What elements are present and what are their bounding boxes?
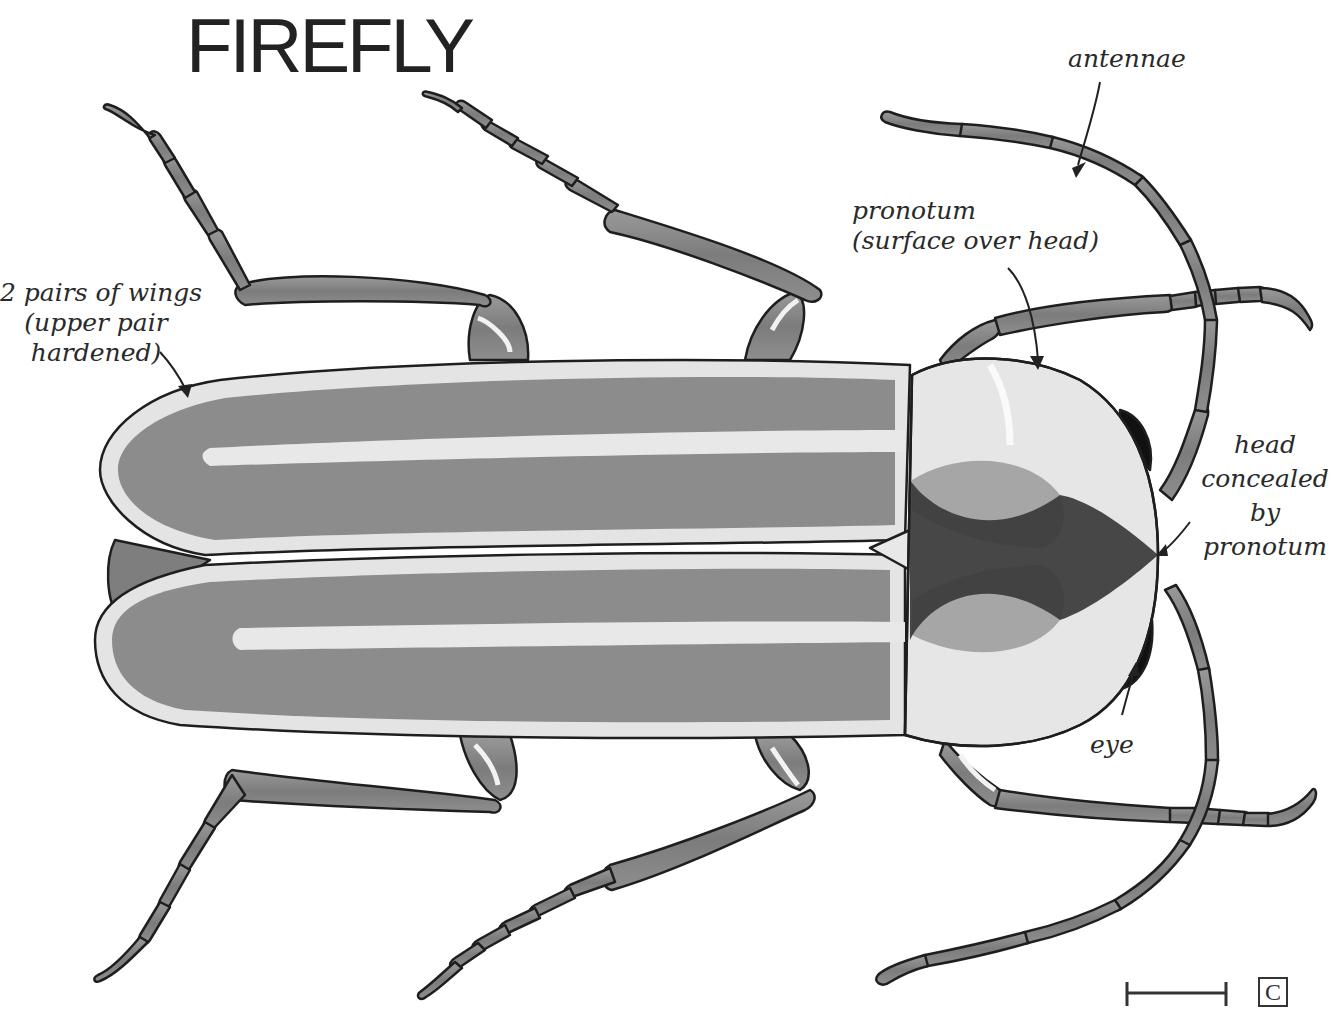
label-pronotum: pronotum (surface over head) <box>852 196 1099 256</box>
pronotum <box>905 359 1158 747</box>
label-head: head concealed by pronotum <box>1190 428 1338 564</box>
label-pronotum-line2: (surface over head) <box>852 226 1099 256</box>
firefly-diagram: FIREFLY <box>0 0 1338 1036</box>
elytron-upper <box>100 360 910 555</box>
label-antennae: antennae <box>1068 44 1186 74</box>
label-head-line1: head <box>1190 428 1338 462</box>
label-pronotum-line1: pronotum <box>852 196 1099 226</box>
label-eye: eye <box>1090 730 1134 760</box>
label-head-line3: by <box>1190 496 1338 530</box>
firefly-illustration <box>0 0 1338 1036</box>
label-wings-line2: (upper pair <box>0 308 192 338</box>
elytron-lower <box>95 553 905 738</box>
label-wings-line1: 2 pairs of wings <box>0 278 192 308</box>
scale-letter-box: C <box>1258 977 1288 1007</box>
label-wings: 2 pairs of wings (upper pair hardened) <box>0 278 192 368</box>
label-head-line2: concealed <box>1190 462 1338 496</box>
leg-rear-lower <box>94 735 516 982</box>
scale-bar <box>1127 982 1226 1006</box>
label-wings-line3: hardened) <box>0 338 192 368</box>
label-head-line4: pronotum <box>1190 530 1338 564</box>
